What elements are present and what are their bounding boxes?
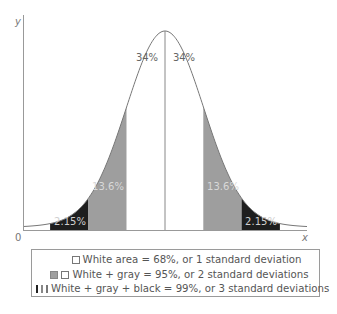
legend-item-1sd: White area = 68%, or 1 standard deviatio… bbox=[32, 253, 319, 268]
legend-text: White area = 68%, or 1 standard deviatio… bbox=[83, 253, 302, 268]
x-axis-label: x bbox=[301, 232, 308, 243]
white-swatch-icon bbox=[61, 271, 69, 279]
black-swatch-icon bbox=[36, 285, 38, 293]
gray-swatch-icon bbox=[50, 271, 58, 279]
band-label-left-1: 34% bbox=[136, 52, 158, 63]
gray-swatch-icon bbox=[41, 285, 43, 293]
white-swatch-icon bbox=[46, 285, 48, 293]
y-axis-label: y bbox=[14, 16, 22, 27]
band-label-right-1: 34% bbox=[173, 52, 195, 63]
white-swatch-icon bbox=[72, 256, 80, 264]
legend-text: White + gray = 95%, or 2 standard deviat… bbox=[72, 268, 308, 283]
legend: White area = 68%, or 1 standard deviatio… bbox=[31, 249, 320, 297]
legend-item-2sd: White + gray = 95%, or 2 standard deviat… bbox=[32, 268, 319, 283]
band-label-right-3: 2.15% bbox=[245, 216, 277, 227]
origin-label: 0 bbox=[15, 232, 21, 243]
band-label-left-3: 2.15% bbox=[54, 216, 86, 227]
band-label-right-2: 13.6% bbox=[207, 181, 239, 192]
legend-item-3sd: White + gray + black = 99%, or 3 standar… bbox=[32, 282, 319, 297]
bell-curve-chart: y x 0 34% 34% 13.6% 13.6% 2.15% 2.15% bbox=[0, 0, 337, 245]
legend-text: White + gray + black = 99%, or 3 standar… bbox=[51, 282, 329, 297]
band-label-left-2: 13.6% bbox=[92, 181, 124, 192]
